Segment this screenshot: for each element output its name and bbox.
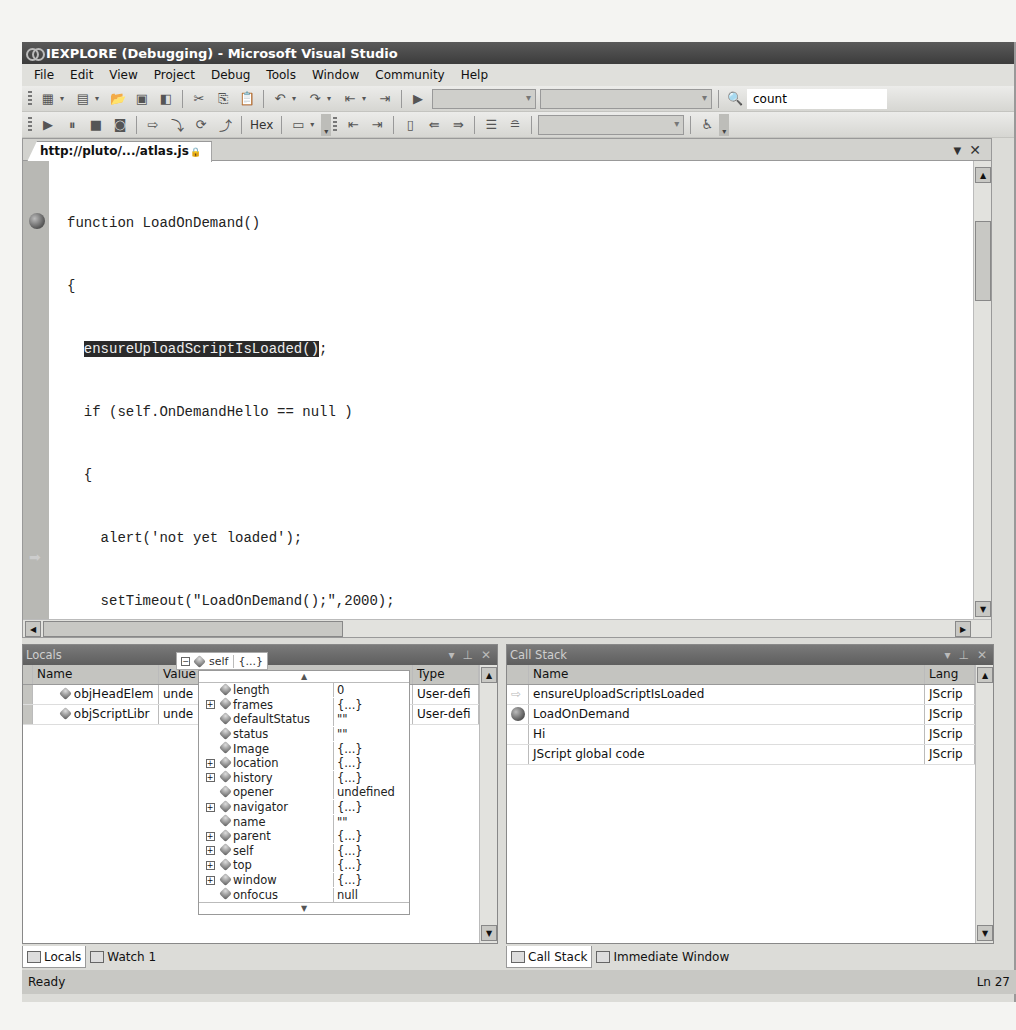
active-files-dropdown-icon[interactable]: ▼ [954, 145, 962, 158]
menu-window[interactable]: Window [304, 68, 367, 82]
scroll-down-icon[interactable]: ▼ [481, 925, 497, 941]
breakpoints-window-dropdown[interactable]: ▾ [310, 120, 318, 129]
datatip-row[interactable]: Image{...} [199, 741, 409, 756]
member-value[interactable]: null [333, 888, 409, 902]
solution-platform-combo[interactable] [540, 89, 712, 109]
member-value[interactable]: {...} [333, 858, 409, 872]
scroll-thumb[interactable] [43, 621, 343, 637]
expand-icon-slot[interactable]: + [199, 759, 221, 768]
collapse-icon[interactable]: − [181, 657, 190, 666]
datatip-row[interactable]: defaultStatus"" [199, 712, 409, 727]
expand-icon-slot[interactable]: + [199, 832, 221, 841]
member-value[interactable]: undefined [333, 785, 409, 799]
expand-icon-slot[interactable]: + [199, 773, 221, 782]
scroll-up-icon[interactable]: ▲ [975, 167, 991, 183]
tab-watch-1[interactable]: Watch 1 [86, 946, 160, 968]
open-file-icon[interactable]: 📂 [108, 89, 128, 109]
menu-edit[interactable]: Edit [62, 68, 101, 82]
continue-icon[interactable]: ▶ [38, 115, 58, 135]
expand-icon-slot[interactable]: + [199, 700, 221, 709]
restart-icon[interactable]: ◙ [110, 115, 130, 135]
datatip-row[interactable]: +frames{...} [199, 698, 409, 713]
table-row[interactable]: LoadOnDemand JScrip [507, 705, 975, 725]
member-value[interactable]: "" [333, 815, 409, 829]
menu-debug[interactable]: Debug [203, 68, 258, 82]
comment-icon[interactable]: ⇤ [343, 115, 363, 135]
expand-icon-slot[interactable]: + [199, 846, 221, 855]
close-document-icon[interactable]: ✕ [969, 142, 981, 158]
expand-icon-slot[interactable]: + [199, 803, 221, 812]
redo-icon[interactable]: ↷ [305, 89, 325, 109]
window-position-dropdown-icon[interactable]: ▾ [944, 648, 950, 662]
member-value[interactable]: 0 [333, 683, 409, 697]
datatip-row[interactable]: openerundefined [199, 785, 409, 800]
scroll-right-icon[interactable]: ▶ [955, 621, 971, 637]
datatip-row[interactable]: +history{...} [199, 771, 409, 786]
expand-icon-slot[interactable]: + [199, 876, 221, 885]
column-header-name[interactable]: Name [33, 665, 159, 684]
close-panel-icon[interactable]: ✕ [481, 648, 491, 662]
close-panel-icon[interactable]: ✕ [977, 648, 987, 662]
datatip-row[interactable]: name"" [199, 814, 409, 829]
auto-hide-pin-icon[interactable]: ⊥ [462, 648, 472, 662]
new-project-icon[interactable]: ▦ [38, 89, 58, 109]
navigate-forward-icon[interactable]: ⇥ [375, 89, 395, 109]
find-in-files-icon[interactable]: 🔍 [725, 89, 745, 109]
scroll-down-icon[interactable]: ▼ [977, 925, 993, 941]
paste-icon[interactable]: 📋 [237, 89, 257, 109]
toggle-bookmark-icon[interactable]: ▯ [400, 115, 420, 135]
navigate-backward-dropdown[interactable]: ▾ [362, 94, 370, 103]
tab-call-stack[interactable]: Call Stack [506, 946, 592, 968]
save-all-icon[interactable]: ◧ [156, 89, 176, 109]
member-value[interactable]: {...} [333, 829, 409, 843]
scroll-left-icon[interactable]: ◀ [25, 621, 41, 637]
menu-project[interactable]: Project [146, 68, 203, 82]
show-next-statement-icon[interactable]: ⇨ [143, 115, 163, 135]
start-icon[interactable]: ▶ [408, 89, 428, 109]
member-value[interactable]: {...} [333, 742, 409, 756]
datatip-row[interactable]: +top{...} [199, 858, 409, 873]
editor-vertical-scrollbar[interactable]: ▲ ▼ [973, 161, 991, 619]
save-icon[interactable]: ▣ [132, 89, 152, 109]
copy-icon[interactable]: ⎘ [213, 89, 233, 109]
column-header-name[interactable]: Name [529, 665, 925, 684]
datatip-row[interactable]: +navigator{...} [199, 800, 409, 815]
member-value[interactable]: {...} [333, 756, 409, 770]
member-value[interactable]: {...} [333, 873, 409, 887]
comment-lines-icon[interactable]: ☰ [481, 115, 501, 135]
stop-debugging-icon[interactable]: ■ [86, 115, 106, 135]
column-header-language[interactable]: Lang [925, 665, 975, 684]
menu-tools[interactable]: Tools [258, 68, 304, 82]
menu-file[interactable]: File [26, 68, 62, 82]
menu-community[interactable]: Community [367, 68, 452, 82]
expand-icon[interactable]: + [206, 861, 215, 870]
datatip-row[interactable]: +location{...} [199, 756, 409, 771]
toolbar-grip[interactable] [333, 117, 337, 133]
hex-toggle-button[interactable]: Hex [246, 118, 277, 132]
redo-dropdown[interactable]: ▾ [327, 94, 335, 103]
scroll-up-icon[interactable]: ▲ [199, 671, 409, 683]
scroll-down-icon[interactable]: ▼ [975, 601, 991, 617]
expand-icon[interactable]: + [206, 759, 215, 768]
member-value[interactable]: {...} [333, 698, 409, 712]
toolbar-grip[interactable] [28, 117, 32, 133]
locals-scrollbar[interactable]: ▲ ▼ [479, 665, 497, 943]
toolbar-overflow-chevron[interactable]: ▾ [719, 114, 729, 136]
undo-icon[interactable]: ↶ [270, 89, 290, 109]
datatip-row[interactable]: status"" [199, 727, 409, 742]
step-into-icon[interactable]: ⤵ [167, 115, 187, 135]
datatip-row[interactable]: +self{...} [199, 844, 409, 859]
member-value[interactable]: "" [333, 712, 409, 726]
tab-atlas-js[interactable]: http://pluto/.../atlas.js🔒 [27, 141, 212, 162]
table-row[interactable]: Hi JScrip [507, 725, 975, 745]
increase-indent-icon[interactable]: ⇛ [448, 115, 468, 135]
expand-icon[interactable]: + [206, 700, 215, 709]
member-value[interactable]: {...} [333, 844, 409, 858]
expand-icon[interactable]: + [206, 803, 215, 812]
member-value[interactable]: {...} [333, 771, 409, 785]
uncomment-lines-icon[interactable]: ≘ [505, 115, 525, 135]
navigate-backward-icon[interactable]: ⇤ [340, 89, 360, 109]
breakpoint-icon[interactable] [29, 213, 45, 229]
datatip-row[interactable]: +window{...} [199, 873, 409, 888]
scroll-down-icon[interactable]: ▼ [199, 902, 409, 914]
